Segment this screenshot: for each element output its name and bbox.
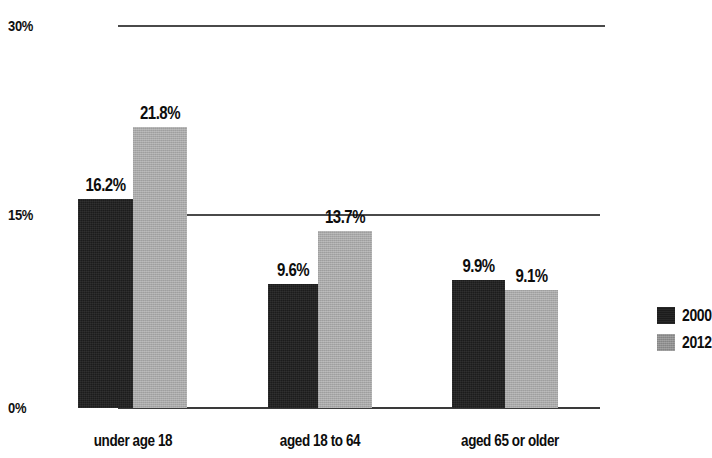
bar-2012-aged-18-to-64: [318, 231, 372, 408]
bar-2000-aged-18-to-64: [268, 284, 318, 408]
legend-item-2012: 2012: [657, 332, 705, 359]
legend-label-2012: 2012: [682, 332, 712, 351]
chart-legend: 2000 2012: [657, 305, 705, 359]
bar-value-2012-under-age-18: 21.8%: [127, 103, 193, 123]
ytick-label-0: 0%: [8, 399, 26, 417]
bar-value-2000-under-age-18: 16.2%: [73, 175, 138, 195]
ytick-label-15: 15%: [8, 206, 33, 224]
bar-2000-aged-65-or-older: [452, 280, 505, 408]
legend-label-2000: 2000: [682, 305, 712, 324]
bar-2012-under-age-18: [133, 127, 187, 408]
category-label-aged-18-to-64: aged 18 to 64: [245, 432, 395, 450]
bar-value-2012-aged-18-to-64: 13.7%: [312, 207, 378, 227]
legend-item-2000: 2000: [657, 305, 705, 332]
bar-value-2000-aged-18-to-64: 9.6%: [262, 260, 324, 280]
legend-swatch-2012-icon: [657, 334, 675, 351]
category-label-aged-65-or-older: aged 65 or older: [430, 432, 590, 450]
category-label-under-age-18: under age 18: [58, 432, 208, 450]
ytick-label-30: 30%: [8, 17, 33, 35]
gridline-30: [118, 25, 605, 27]
legend-swatch-2000-icon: [657, 307, 675, 324]
bar-2000-under-age-18: [78, 199, 133, 408]
bar-2012-aged-65-or-older: [505, 290, 558, 408]
bar-value-2012-aged-65-or-older: 9.1%: [499, 266, 564, 286]
